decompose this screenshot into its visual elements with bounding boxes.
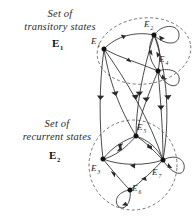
transitory-caption-line1: Set of bbox=[48, 8, 75, 19]
transitory-set-subscript: 1 bbox=[60, 44, 63, 51]
node-dot-E5 bbox=[134, 134, 139, 139]
node-dot-E7 bbox=[161, 158, 166, 163]
node-label-sub-E1: 1 bbox=[98, 42, 101, 48]
node-label-E3: E bbox=[90, 163, 97, 173]
figure-background bbox=[0, 0, 193, 216]
node-label-E7: E bbox=[151, 167, 158, 177]
recurrent-set-subscript: 2 bbox=[57, 156, 60, 163]
recurrent-caption-line2: recurrent states bbox=[23, 131, 92, 142]
recurrent-set-symbol: E bbox=[49, 149, 56, 161]
node-label-sub-E4: 4 bbox=[166, 60, 169, 66]
transitory-set-symbol: E bbox=[52, 37, 59, 49]
transitory-caption-line2: transitory states bbox=[24, 21, 95, 32]
node-label-E2: E bbox=[143, 19, 150, 29]
node-label-sub-E2: 2 bbox=[151, 25, 154, 31]
node-dot-E4 bbox=[156, 69, 161, 74]
node-label-sub-E3: 3 bbox=[97, 169, 101, 175]
node-label-E1: E bbox=[90, 36, 97, 46]
node-label-sub-E5: 5 bbox=[144, 128, 147, 134]
node-dot-E2 bbox=[152, 33, 157, 38]
node-label-E5: E bbox=[136, 122, 143, 132]
node-label-sub-E7: 7 bbox=[159, 173, 162, 179]
node-label-sub-E6: 6 bbox=[139, 189, 142, 195]
node-dot-E1 bbox=[102, 47, 107, 52]
node-label-E6: E bbox=[131, 183, 138, 193]
node-dot-E3 bbox=[101, 157, 106, 162]
state-transition-diagram: Set of transitory states E 1 Set of recu… bbox=[0, 0, 193, 216]
node-label-E4: E bbox=[158, 54, 165, 64]
recurrent-caption-line1: Set of bbox=[45, 118, 72, 129]
